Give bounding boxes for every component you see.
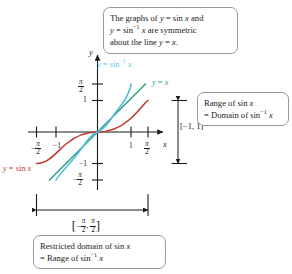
x-tick-label-neg-pi-over-2: − π 2 xyxy=(31,141,41,157)
text-segment: The graphs of xyxy=(110,13,160,23)
x-tick-label-neg-1: −1 xyxy=(53,141,61,150)
sine-label-eq: = sin xyxy=(7,164,28,173)
callout-domain-line-1: Restricted domain of sin x xyxy=(40,240,159,252)
y-tick-label-1: 1 xyxy=(83,95,87,104)
figure-container: y x π 2 1 −1 − π 2 − π 2 −1 1 π 2 y = si… xyxy=(0,0,292,274)
comma-glyph: , xyxy=(86,221,88,230)
exponent-glyph: −1 xyxy=(260,108,267,115)
text-segment: are symmetric xyxy=(146,25,197,35)
pi-glyph: π xyxy=(144,141,150,148)
callout-symmetry-line-2: y = sin−1 x are symmetric xyxy=(110,24,231,36)
two-glyph: 2 xyxy=(35,148,41,156)
sine-curve-label: y = sin x xyxy=(3,164,31,173)
text-segment: x xyxy=(267,110,273,120)
range-measure-arrow xyxy=(172,101,188,164)
identity-line-label: y = x xyxy=(152,78,168,87)
y-axis-label: y xyxy=(89,48,93,57)
text-segment: . xyxy=(176,37,178,47)
two-glyph: 2 xyxy=(78,86,84,94)
callout-range-domain: Range of sin x = Domain of sin−1 x xyxy=(197,92,289,126)
callout-symmetry: The graphs of y = sin x and y = sin−1 x … xyxy=(103,7,238,54)
pi-glyph: π xyxy=(78,79,84,86)
y-tick-label-neg-1: −1 xyxy=(79,159,87,168)
text-segment: = sin xyxy=(114,25,133,35)
arcsine-label-eq: = sin xyxy=(101,60,120,69)
text-segment: x xyxy=(97,253,103,263)
text-segment: x xyxy=(126,241,130,251)
x-tick-label-1: 1 xyxy=(129,141,133,150)
text-segment: = Range of sin xyxy=(40,253,90,263)
text-segment: about the line xyxy=(110,37,159,47)
y-tick-label-pi-over-2: π 2 xyxy=(78,79,84,95)
two-glyph: 2 xyxy=(144,148,150,156)
callout-domain-line-2: = Range of sin−1 x xyxy=(40,252,159,264)
bracket-close: ] xyxy=(96,218,100,233)
text-segment: = xyxy=(163,37,172,47)
text-segment: and xyxy=(189,13,204,23)
identity-label-x: x xyxy=(165,78,169,87)
callout-range-line-2: = Domain of sin−1 x xyxy=(204,109,282,121)
y-tick-label-neg-pi-over-2: − π 2 xyxy=(73,172,83,188)
text-segment: Restricted domain of sin xyxy=(40,241,126,251)
x-axis-label: x xyxy=(163,140,167,149)
text-segment: = Domain of sin xyxy=(204,110,260,120)
domain-measure-arrow xyxy=(37,194,149,216)
callout-range-line-1: Range of sin x xyxy=(204,97,282,109)
two-glyph: 2 xyxy=(77,179,83,187)
y-axis xyxy=(92,55,103,190)
domain-interval-label: [− π 2 , π 2 ] xyxy=(72,218,100,234)
arcsine-label-x: x xyxy=(126,60,132,69)
exponent-glyph: −1 xyxy=(133,23,140,30)
callout-symmetry-line-3: about the line y = x. xyxy=(110,36,231,48)
callout-symmetry-line-1: The graphs of y = sin x and xyxy=(110,12,231,24)
pi-glyph: π xyxy=(77,172,83,179)
callout-restricted-domain: Restricted domain of sin x = Range of si… xyxy=(33,235,166,269)
identity-label-eq: = xyxy=(156,78,165,87)
text-segment: = sin xyxy=(164,13,185,23)
sine-label-x: x xyxy=(28,164,32,173)
arcsine-curve-label: y = sin−1 x xyxy=(97,60,132,69)
pi-glyph: π xyxy=(35,141,41,148)
x-tick-label-pi-over-2: π 2 xyxy=(144,141,150,157)
text-segment: x xyxy=(250,98,254,108)
text-segment: Range of sin xyxy=(204,98,250,108)
